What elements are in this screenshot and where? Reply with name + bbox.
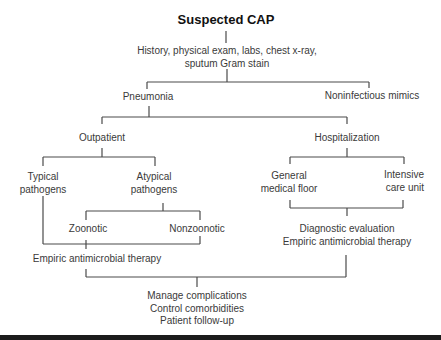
node-diagnostic-evaluation: Diagnostic evaluation Empiric antimicrob… [283,223,411,248]
hospitalization-label: Hospitalization [314,132,379,143]
node-typical-pathogens: Typical pathogens [20,171,67,196]
node-outpatient: Outpatient [79,132,125,145]
pneumonia-label: Pneumonia [123,91,174,102]
general-line-1: General [261,170,318,183]
node-atypical-pathogens: Atypical pathogens [131,171,178,196]
typical-line-2: pathogens [20,184,67,197]
outpatient-therapy-label: Empiric antimicrobial therapy [33,253,161,264]
workup-line-1: History, physical exam, labs, chest x-ra… [137,45,317,58]
cap-flowchart: Suspected CAP History, physical exam, la… [0,0,441,340]
final-line-3: Patient follow-up [147,315,247,328]
node-zoonotic: Zoonotic [69,223,107,236]
atypical-line-1: Atypical [131,171,178,184]
node-nonzoonotic: Nonzoonotic [169,223,225,236]
final-line-2: Control comorbidities [147,303,247,316]
nonzoonotic-label: Nonzoonotic [169,223,225,234]
evaluation-line-1: Diagnostic evaluation [283,223,411,236]
bottom-border-bar [0,335,441,340]
node-initial-workup: History, physical exam, labs, chest x-ra… [137,45,317,70]
node-intensive-care-unit: Intensive care unit [384,169,424,194]
node-final-management: Manage complications Control comorbiditi… [147,290,247,328]
final-line-1: Manage complications [147,290,247,303]
node-outpatient-therapy: Empiric antimicrobial therapy [33,253,161,266]
title-text: Suspected CAP [178,12,275,27]
zoonotic-label: Zoonotic [69,223,107,234]
general-line-2: medical floor [261,183,318,196]
outpatient-label: Outpatient [79,132,125,143]
node-suspected-cap: Suspected CAP [178,14,275,27]
node-hospitalization: Hospitalization [314,132,379,145]
icu-line-1: Intensive [384,169,424,182]
mimics-label: Noninfectious mimics [325,90,419,101]
node-pneumonia: Pneumonia [123,91,174,104]
node-noninfectious-mimics: Noninfectious mimics [325,90,419,103]
typical-line-1: Typical [20,171,67,184]
atypical-line-2: pathogens [131,184,178,197]
icu-line-2: care unit [384,182,424,195]
node-general-medical-floor: General medical floor [261,170,318,195]
workup-line-2: sputum Gram stain [137,58,317,71]
evaluation-line-2: Empiric antimicrobial therapy [283,236,411,249]
